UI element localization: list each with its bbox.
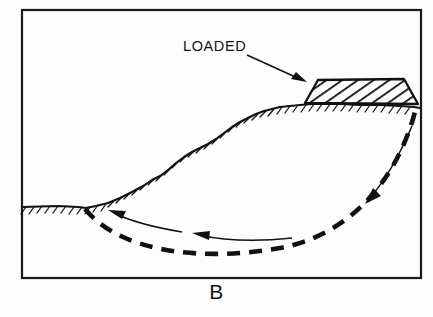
figure-caption-label: B bbox=[0, 279, 433, 305]
surcharge-fill-block bbox=[305, 79, 418, 104]
slope-stability-diagram: LOADED bbox=[0, 0, 433, 317]
loaded-label: LOADED bbox=[183, 38, 246, 54]
figure-root: LOADED B bbox=[0, 0, 433, 317]
